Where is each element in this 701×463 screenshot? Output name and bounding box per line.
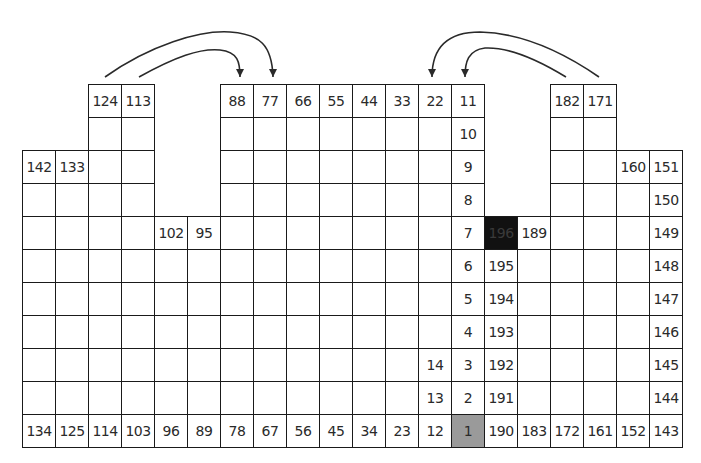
grid-cell: 113 xyxy=(121,84,155,118)
grid-cell xyxy=(385,348,419,382)
grid-cell: 2 xyxy=(451,381,485,415)
grid-cell xyxy=(88,117,122,151)
grid-cell xyxy=(616,348,650,382)
grid-cell xyxy=(22,381,56,415)
grid-cell xyxy=(319,183,353,217)
grid-cell: 96 xyxy=(154,414,188,448)
grid-cell xyxy=(616,315,650,349)
grid-cell xyxy=(319,216,353,250)
grid-cell xyxy=(253,381,287,415)
grid-cell: 55 xyxy=(319,84,353,118)
grid-cell xyxy=(220,150,254,184)
grid-cell xyxy=(616,381,650,415)
grid-cell xyxy=(352,117,386,151)
grid-cell: 145 xyxy=(649,348,683,382)
grid-cell xyxy=(253,216,287,250)
grid-cell xyxy=(22,315,56,349)
grid-cell xyxy=(187,315,221,349)
grid-cell xyxy=(319,381,353,415)
grid-cell xyxy=(418,183,452,217)
grid-cell xyxy=(418,249,452,283)
grid-cell: 14 xyxy=(418,348,452,382)
grid-cell: 142 xyxy=(22,150,56,184)
grid-cell: 33 xyxy=(385,84,419,118)
grid-cell: 9 xyxy=(451,150,485,184)
arrowhead-icon xyxy=(461,69,469,77)
grid-cell xyxy=(220,315,254,349)
grid-cell xyxy=(286,117,320,151)
grid-cell xyxy=(253,117,287,151)
grid-cell: 134 xyxy=(22,414,56,448)
grid-cell xyxy=(583,117,617,151)
grid-cell xyxy=(55,249,89,283)
grid-cell: 10 xyxy=(451,117,485,151)
grid-cell xyxy=(55,348,89,382)
grid-cell: 143 xyxy=(649,414,683,448)
grid-cell: 144 xyxy=(649,381,683,415)
grid-cell xyxy=(55,381,89,415)
grid-cell xyxy=(583,183,617,217)
grid-cell xyxy=(517,315,551,349)
grid-cell xyxy=(352,150,386,184)
grid-cell xyxy=(418,117,452,151)
grid-cell xyxy=(286,249,320,283)
grid-cell xyxy=(253,150,287,184)
grid-cell xyxy=(55,282,89,316)
grid-cell xyxy=(352,249,386,283)
start-cell: 1 xyxy=(451,414,485,448)
grid-cell xyxy=(22,249,56,283)
grid-cell xyxy=(154,315,188,349)
arrowhead-icon xyxy=(269,69,277,77)
grid-cell xyxy=(187,348,221,382)
grid-cell: 8 xyxy=(451,183,485,217)
grid-cell xyxy=(385,249,419,283)
grid-cell: 23 xyxy=(385,414,419,448)
wrap-arrow xyxy=(465,48,566,77)
grid-cell xyxy=(121,249,155,283)
grid-cell xyxy=(616,216,650,250)
grid-cell xyxy=(22,282,56,316)
grid-cell: 12 xyxy=(418,414,452,448)
grid-cell xyxy=(187,282,221,316)
grid-cell xyxy=(385,315,419,349)
grid-cell xyxy=(583,348,617,382)
grid-cell xyxy=(616,183,650,217)
grid-cell: 152 xyxy=(616,414,650,448)
grid-cell: 45 xyxy=(319,414,353,448)
grid-cell xyxy=(550,282,584,316)
grid-cell xyxy=(352,381,386,415)
grid-cell xyxy=(352,282,386,316)
grid-cell: 147 xyxy=(649,282,683,316)
grid-cell: 161 xyxy=(583,414,617,448)
grid-cell xyxy=(187,381,221,415)
grid-cell xyxy=(418,150,452,184)
grid-cell xyxy=(121,282,155,316)
grid-cell xyxy=(88,348,122,382)
grid-cell xyxy=(220,117,254,151)
grid-cell xyxy=(286,315,320,349)
grid-cell xyxy=(319,249,353,283)
grid-cell xyxy=(121,150,155,184)
arrowhead-icon xyxy=(236,69,244,77)
grid-cell xyxy=(220,216,254,250)
grid-cell: 66 xyxy=(286,84,320,118)
grid-cell xyxy=(517,282,551,316)
grid-cell xyxy=(88,150,122,184)
grid-cell xyxy=(319,315,353,349)
grid-cell xyxy=(22,348,56,382)
grid-cell xyxy=(286,348,320,382)
grid-cell xyxy=(22,183,56,217)
grid-cell xyxy=(583,282,617,316)
grid-cell: 103 xyxy=(121,414,155,448)
grid-cell xyxy=(319,150,353,184)
grid-cell xyxy=(583,381,617,415)
grid-cell xyxy=(286,183,320,217)
grid-cell xyxy=(550,315,584,349)
grid-cell: 183 xyxy=(517,414,551,448)
grid-cell xyxy=(550,117,584,151)
grid-cell: 3 xyxy=(451,348,485,382)
grid-cell: 151 xyxy=(649,150,683,184)
grid-cell xyxy=(121,315,155,349)
grid-cell xyxy=(352,348,386,382)
grid-cell xyxy=(550,348,584,382)
